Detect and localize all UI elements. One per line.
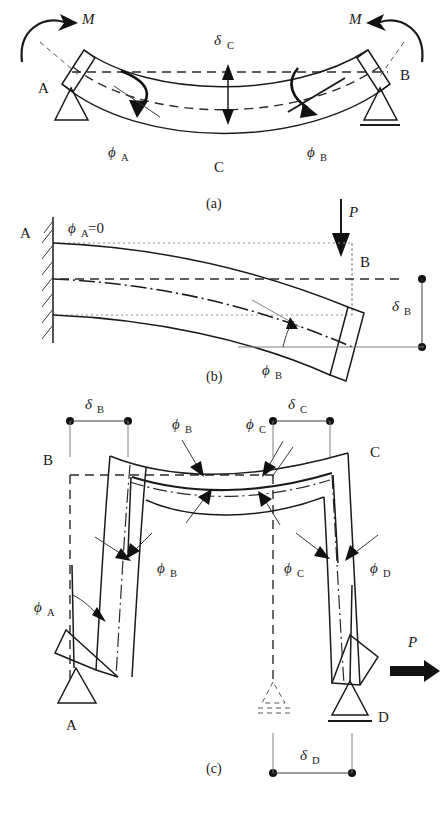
fixed-support-a bbox=[42, 217, 53, 343]
pin-support-a bbox=[55, 88, 88, 120]
corner-tick-c bbox=[333, 475, 338, 563]
deflection-label-c-c-sub: C bbox=[300, 404, 307, 415]
rotation-label-b-low: ϕ bbox=[157, 560, 165, 576]
corner-tick-b bbox=[128, 477, 131, 553]
rotation-label-b-b-sub: B bbox=[275, 370, 282, 381]
beam-bottom-edge-a bbox=[62, 84, 390, 134]
deflection-label-b: δ bbox=[392, 298, 400, 314]
load-arrow-b bbox=[332, 199, 350, 257]
rotation-label-b-top-sub: B bbox=[185, 424, 192, 435]
rotation-label-d: ϕ bbox=[370, 560, 378, 576]
deflection-label-d-sub: D bbox=[312, 755, 320, 766]
panel-a: M M A B δ C ϕ A bbox=[0, 0, 444, 225]
rotation-label-a-b: ϕ bbox=[68, 220, 76, 236]
deflection-label-d: δ bbox=[300, 747, 308, 763]
rotation-label-a-c-sub: A bbox=[47, 607, 55, 618]
load-label-b: P bbox=[348, 204, 358, 220]
deflection-label-b-c: δ bbox=[85, 396, 93, 412]
rotation-arrow-b-low-outer bbox=[95, 537, 131, 561]
moment-arrow-right bbox=[366, 14, 422, 62]
node-label-b: B bbox=[400, 67, 410, 83]
node-label-b-b: B bbox=[360, 254, 370, 270]
deflection-label-c: δ bbox=[214, 32, 222, 48]
frame-right-col-outer bbox=[348, 453, 360, 685]
frame-top-inner bbox=[146, 497, 324, 515]
rotation-label-a-c: ϕ bbox=[34, 599, 42, 615]
node-label-d: D bbox=[378, 709, 389, 725]
roller-support-d bbox=[328, 681, 372, 721]
deflection-label-b-sub: B bbox=[404, 306, 411, 317]
ghost-roller-support bbox=[258, 682, 292, 713]
rotation-label-b-low-sub: B bbox=[170, 568, 177, 579]
node-label-b-c: B bbox=[43, 452, 53, 468]
load-label-c: P bbox=[407, 634, 417, 650]
pin-support-a-c bbox=[58, 668, 96, 703]
node-label-c-c: C bbox=[370, 444, 380, 460]
rotation-label-b: ϕ bbox=[307, 144, 315, 160]
node-label-a-b: A bbox=[20, 225, 31, 241]
rotation-arrow-b-top bbox=[182, 440, 204, 477]
rotation-label-c-top-sub: C bbox=[259, 424, 266, 435]
roller-support-b bbox=[360, 88, 400, 125]
node-label-a: A bbox=[38, 80, 49, 96]
frame-right-col-axis bbox=[332, 475, 344, 685]
deflected-axis-b bbox=[53, 279, 352, 347]
dimension-delta-c-c bbox=[269, 417, 334, 457]
rotation-arrow-d bbox=[345, 535, 378, 561]
caption-c: (c) bbox=[206, 761, 222, 777]
rotation-arrow-c-top bbox=[262, 441, 293, 477]
rotation-arc-a-c bbox=[73, 595, 106, 622]
frame-left-col-axis bbox=[116, 465, 130, 677]
panel-b: P A ϕ A =0 ϕ B B δ B bbox=[0, 195, 444, 390]
panel-c: δ B δ C B C ϕ B bbox=[0, 385, 444, 813]
rotation-arrow-a bbox=[114, 71, 160, 118]
moment-arrow-left bbox=[22, 14, 78, 62]
rotation-label-b-b: ϕ bbox=[262, 362, 270, 378]
vertical-ref-a bbox=[72, 565, 74, 668]
deflection-label-b-c-sub: B bbox=[97, 404, 104, 415]
rotation-arrow-c-low bbox=[296, 533, 330, 559]
deflection-label-c-c: δ bbox=[288, 396, 296, 412]
moment-label-left: M bbox=[81, 11, 96, 27]
rotation-arrow-beam-right bbox=[258, 491, 280, 525]
frame-left-col-outer bbox=[96, 456, 110, 670]
rotation-label-c-top: ϕ bbox=[246, 416, 254, 432]
rotation-label-c-low: ϕ bbox=[284, 560, 292, 576]
rotation-label-b-top: ϕ bbox=[172, 416, 180, 432]
deflection-arrow-c bbox=[222, 64, 234, 125]
dimension-delta-b-c bbox=[66, 417, 132, 457]
rotation-label-a-sub: A bbox=[121, 152, 129, 163]
rotation-label-d-sub: D bbox=[383, 568, 391, 579]
rotation-label-a: ϕ bbox=[108, 144, 116, 160]
beam-top-edge-b bbox=[53, 243, 348, 307]
rotation-arrow-b bbox=[288, 68, 345, 118]
beam-top-edge-a bbox=[84, 50, 368, 87]
rotation-label-b-sub: B bbox=[320, 152, 327, 163]
vertical-ref-d bbox=[350, 585, 352, 681]
frame-left-col-inner bbox=[132, 468, 146, 677]
section-free-end-b bbox=[330, 307, 364, 381]
rotation-a-value: =0 bbox=[88, 220, 104, 236]
caption-b: (b) bbox=[206, 369, 223, 385]
undeformed-end-left bbox=[40, 42, 80, 76]
node-label-a-c: A bbox=[66, 717, 77, 733]
node-label-c: C bbox=[214, 159, 224, 175]
moment-label-right: M bbox=[348, 11, 363, 27]
rotation-label-c-low-sub: C bbox=[297, 568, 304, 579]
deflection-label-c-sub: C bbox=[227, 40, 234, 51]
